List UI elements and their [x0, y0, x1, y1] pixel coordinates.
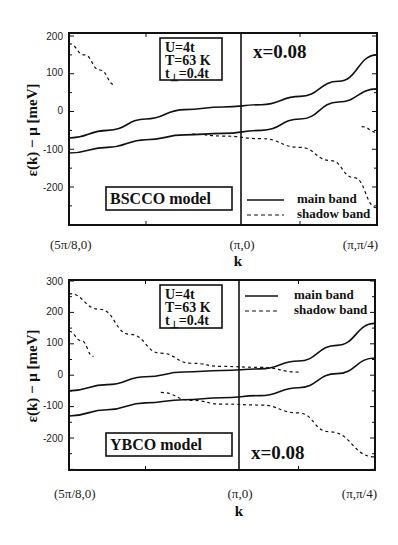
- bottom-ytick-label: -100: [43, 400, 63, 411]
- bottom-ytick-label: -200: [43, 433, 63, 444]
- bottom-doping-label: x=0.08: [251, 442, 305, 463]
- top-xtick-label: (π,0): [230, 237, 255, 252]
- bottom-x-axis-title: k: [235, 503, 244, 519]
- top-x-axis-title: k: [234, 253, 243, 269]
- bottom-ytick-label: 200: [46, 306, 63, 317]
- top-xtick-label: (π,π/4): [343, 237, 378, 252]
- main-band-curve: [69, 89, 377, 153]
- top-panel: 200 100 0 -100 -200 U=4t T=63 K t⊥=0.4t …: [24, 31, 378, 269]
- bottom-legend-shadow-label: shadow band: [294, 302, 368, 317]
- top-legend-shadow-label: shadow band: [297, 206, 371, 221]
- figure: 200 100 0 -100 -200 U=4t T=63 K t⊥=0.4t …: [0, 0, 398, 545]
- bottom-ytick-label: 100: [46, 337, 63, 348]
- shadow-band-curve: [362, 127, 377, 133]
- top-curves: [69, 44, 377, 208]
- top-legend-main-label: main band: [297, 191, 357, 206]
- main-band-curve: [69, 323, 375, 391]
- top-xtick-label: (5π/8,0): [50, 237, 92, 252]
- main-band-curve: [69, 358, 375, 416]
- top-ytick-label: 200: [46, 31, 63, 42]
- shadow-band-curve: [69, 44, 115, 86]
- top-ytick-label: -100: [43, 144, 63, 155]
- top-y-axis-title: ε(k) − μ [meV]: [24, 83, 41, 176]
- top-doping-label: x=0.08: [253, 41, 307, 62]
- top-ytick-label: -200: [43, 182, 63, 193]
- bottom-xtick-label: (π,0): [228, 486, 253, 501]
- main-band-curve: [69, 55, 377, 138]
- bottom-ytick-label: 300: [46, 276, 63, 287]
- bottom-xtick-label: (5π/8,0): [54, 486, 96, 501]
- bottom-y-axis-title: ε(k) − μ [meV]: [24, 329, 41, 422]
- top-model-label: BSCCO model: [110, 190, 211, 207]
- top-ytick-label: 0: [57, 105, 63, 116]
- bottom-panel: 300 200 100 0 -100 -200 U=4t T=63 K t⊥=0…: [24, 276, 377, 519]
- bottom-legend-main-label: main band: [294, 287, 354, 302]
- bottom-model-label: YBCO model: [110, 436, 203, 453]
- top-ytick-label: 100: [46, 67, 63, 78]
- bottom-xtick-label: (π,π/4): [342, 486, 377, 501]
- bottom-ytick-label: 0: [57, 369, 63, 380]
